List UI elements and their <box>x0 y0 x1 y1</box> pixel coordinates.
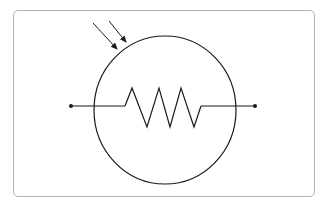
right-lead-wire <box>201 104 257 108</box>
left-lead-wire <box>69 104 125 108</box>
light-arrow-icon <box>93 21 126 49</box>
right-terminal-dot <box>253 104 257 108</box>
ldr-symbol <box>0 0 326 208</box>
left-terminal-dot <box>69 104 73 108</box>
resistor-zigzag-icon <box>125 88 201 127</box>
